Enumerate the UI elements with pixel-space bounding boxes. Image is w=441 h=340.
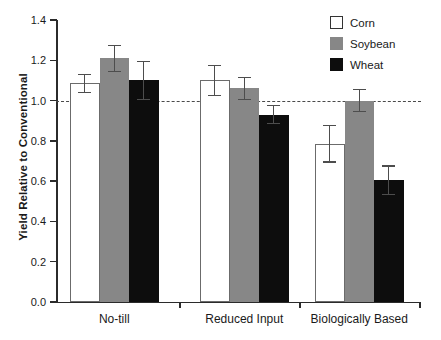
error-bar-stem-corn-1 (214, 65, 215, 95)
error-bar-stem-wheat-1 (273, 106, 274, 124)
chart-legend: CornSoybeanWheat (330, 12, 395, 75)
error-bar-cap-lower-wheat-2 (382, 194, 395, 195)
bar-wheat-2 (374, 180, 404, 302)
y-tick-label: 0.6 (14, 175, 46, 187)
error-bar-cap-lower-corn-2 (323, 161, 336, 162)
error-bar-cap-lower-corn-1 (208, 95, 221, 96)
bar-wheat-0 (129, 80, 159, 302)
error-bar-cap-lower-corn-0 (78, 92, 91, 93)
error-bar-stem-soybean-2 (359, 89, 360, 111)
legend-item-corn[interactable]: Corn (330, 12, 395, 33)
error-bar-cap-upper-corn-1 (208, 65, 221, 66)
legend-item-soybean[interactable]: Soybean (330, 33, 395, 54)
error-bar-cap-upper-wheat-1 (267, 105, 280, 106)
error-bar-cap-upper-wheat-0 (137, 61, 150, 62)
error-bar-cap-upper-soybean-1 (238, 77, 251, 78)
y-tick-label: 1.4 (14, 14, 46, 26)
y-tick-label: 1.0 (14, 95, 46, 107)
error-bar-cap-lower-soybean-0 (108, 71, 121, 72)
bar-corn-1 (200, 80, 230, 302)
error-bar-cap-upper-corn-2 (323, 125, 336, 126)
error-bar-cap-lower-soybean-1 (238, 99, 251, 100)
error-bar-cap-lower-wheat-1 (267, 123, 280, 124)
legend-swatch-corn-icon (330, 16, 343, 29)
y-tick-label: 0.2 (14, 256, 46, 268)
bar-corn-2 (315, 144, 345, 302)
x-group-label-2: Biologically Based (279, 312, 439, 326)
error-bar-cap-upper-corn-0 (78, 74, 91, 75)
chart-container: Yield Relative to Conventional 0.00.20.4… (0, 0, 441, 340)
legend-label-wheat: Wheat (350, 59, 383, 71)
error-bar-stem-soybean-0 (114, 45, 115, 71)
x-tick-mark-2 (419, 302, 421, 308)
error-bar-stem-wheat-0 (143, 61, 144, 99)
legend-swatch-wheat-icon (330, 58, 343, 71)
y-tick-label: 0.4 (14, 215, 46, 227)
y-tick-label: 1.2 (14, 54, 46, 66)
bar-soybean-2 (345, 101, 375, 302)
x-tick-mark-1 (299, 302, 301, 308)
bar-soybean-0 (100, 58, 130, 302)
error-bar-cap-upper-soybean-0 (108, 45, 121, 46)
bar-wheat-1 (259, 115, 289, 302)
error-bar-stem-soybean-1 (244, 77, 245, 99)
y-tick-label: 0.0 (14, 296, 46, 308)
x-tick-mark-0 (179, 302, 181, 308)
error-bar-stem-corn-0 (84, 74, 85, 92)
error-bar-stem-corn-2 (329, 126, 330, 162)
legend-item-wheat[interactable]: Wheat (330, 54, 395, 75)
error-bar-cap-lower-wheat-0 (137, 99, 150, 100)
error-bar-cap-lower-soybean-2 (353, 111, 366, 112)
legend-label-soybean: Soybean (350, 38, 395, 50)
legend-swatch-soybean-icon (330, 37, 343, 50)
bar-corn-0 (70, 83, 100, 302)
error-bar-cap-upper-soybean-2 (353, 89, 366, 90)
y-tick-label: 0.8 (14, 135, 46, 147)
legend-label-corn: Corn (350, 17, 375, 29)
bar-soybean-1 (230, 88, 260, 302)
y-axis-title: Yield Relative to Conventional (17, 37, 29, 277)
error-bar-cap-upper-wheat-2 (382, 165, 395, 166)
error-bar-stem-wheat-2 (388, 166, 389, 194)
